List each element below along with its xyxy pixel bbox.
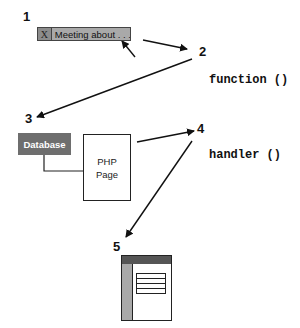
window-icon <box>121 255 172 321</box>
arrow-2-to-3 <box>37 59 192 117</box>
step-number-1: 1 <box>23 10 30 23</box>
handler-label: handler () <box>209 149 281 161</box>
arrow-php-to-4 <box>137 131 194 142</box>
window-list-row <box>137 289 165 294</box>
db-php-connector <box>44 155 83 171</box>
php-page-line1: PHP <box>97 155 117 168</box>
step-number-4: 4 <box>197 122 204 135</box>
step-number-3: 3 <box>25 112 32 125</box>
tab-title: Meeting about . . . <box>52 28 130 40</box>
arrow-4-to-5 <box>126 141 192 237</box>
meeting-tab[interactable]: X Meeting about . . . <box>37 27 131 41</box>
database-label: Database <box>23 139 65 150</box>
php-page-box: PHP Page <box>83 134 131 201</box>
window-sidebar <box>122 264 133 320</box>
database-box: Database <box>18 133 71 155</box>
close-icon[interactable]: X <box>38 28 52 40</box>
step-number-5: 5 <box>113 240 120 253</box>
step-number-2: 2 <box>199 45 206 58</box>
arrow-1-to-2 <box>143 40 187 49</box>
function-label: function () <box>209 74 288 86</box>
arrow-pointer-to-tab <box>122 41 135 57</box>
window-header <box>122 256 171 264</box>
php-page-line2: Page <box>96 168 118 181</box>
window-list <box>136 273 166 294</box>
